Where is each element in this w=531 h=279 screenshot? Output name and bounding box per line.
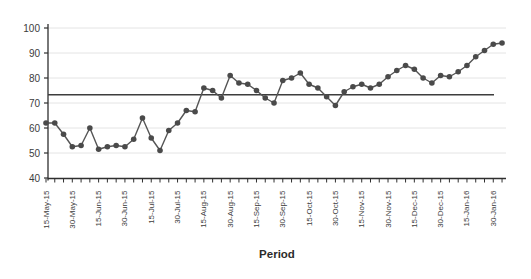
svg-text:15-Dec-15: 15-Dec-15 — [410, 190, 419, 228]
svg-text:30-Jan-16: 30-Jan-16 — [489, 190, 498, 227]
svg-text:15-Oct-15: 15-Oct-15 — [305, 190, 314, 226]
svg-text:15-May-15: 15-May-15 — [42, 190, 51, 229]
svg-text:30-Nov-15: 30-Nov-15 — [384, 190, 393, 228]
svg-text:15-Aug-15: 15-Aug-15 — [199, 190, 208, 228]
chart-canvas: 405060708090100 15-May-1530-May-1515-Jun… — [0, 0, 531, 279]
x-axis-tick-labels: 15-May-1530-May-1515-Jun-1530-Jun-1515-J… — [42, 190, 498, 229]
svg-text:30-Aug-15: 30-Aug-15 — [226, 190, 235, 228]
svg-text:30-Jun-15: 30-Jun-15 — [120, 190, 129, 227]
svg-text:15-Sep-15: 15-Sep-15 — [252, 190, 261, 228]
svg-text:90: 90 — [29, 48, 41, 59]
svg-text:15-Nov-15: 15-Nov-15 — [357, 190, 366, 228]
svg-text:80: 80 — [29, 73, 41, 84]
svg-text:70: 70 — [29, 98, 41, 109]
svg-text:40: 40 — [29, 173, 41, 184]
svg-text:50: 50 — [29, 148, 41, 159]
gridlines — [48, 28, 506, 153]
svg-text:30-Sep-15: 30-Sep-15 — [278, 190, 287, 228]
y-axis-tick-labels: 405060708090100 — [23, 23, 40, 184]
svg-text:60: 60 — [29, 123, 41, 134]
svg-text:15-Jan-16: 15-Jan-16 — [462, 190, 471, 227]
svg-text:30-Oct-15: 30-Oct-15 — [331, 190, 340, 226]
x-axis-title: Period — [259, 248, 295, 260]
svg-text:100: 100 — [23, 23, 40, 34]
svg-text:30-Dec-15: 30-Dec-15 — [436, 190, 445, 228]
svg-text:30-May-15: 30-May-15 — [68, 190, 77, 229]
data-series-line — [43, 40, 505, 153]
svg-text:15-Jun-15: 15-Jun-15 — [94, 190, 103, 227]
svg-text:30-Jul-15: 30-Jul-15 — [173, 190, 182, 224]
svg-text:15-Jul-15: 15-Jul-15 — [147, 190, 156, 224]
run-chart: 405060708090100 15-May-1530-May-1515-Jun… — [0, 0, 531, 279]
